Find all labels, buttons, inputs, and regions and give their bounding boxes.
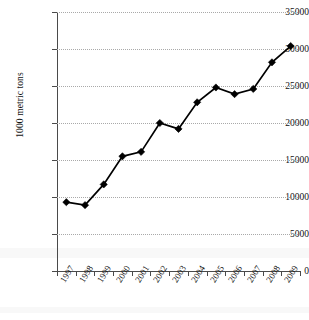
gridline [57, 123, 300, 124]
x-tick-mark [263, 271, 264, 276]
x-tick-mark [169, 271, 170, 276]
x-tick-mark [94, 271, 95, 276]
x-tick-mark [207, 271, 208, 276]
x-tick-mark [132, 271, 133, 276]
x-tick-mark [281, 271, 282, 276]
x-tick-mark [57, 271, 58, 276]
x-tick-mark [188, 271, 189, 276]
x-tick-mark [76, 271, 77, 276]
x-tick-mark [244, 271, 245, 276]
x-tick-mark [225, 271, 226, 276]
scan-artifact-band [0, 307, 309, 313]
gridline [57, 86, 300, 87]
y-axis-title: 1000 metric tons [15, 40, 25, 170]
gridline [57, 12, 300, 13]
gridline [57, 197, 300, 198]
gridline [57, 234, 300, 235]
x-tick-mark [113, 271, 114, 276]
gridline [57, 49, 300, 50]
plot-area [57, 12, 300, 271]
x-tick-mark [150, 271, 151, 276]
gridline [57, 160, 300, 161]
line-chart: 1000 metric tons 05000100001500020000250… [0, 0, 309, 320]
x-tick-mark [300, 271, 301, 276]
